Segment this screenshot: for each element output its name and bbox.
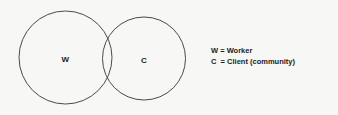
venn-label-client: C: [141, 55, 147, 64]
venn-diagram: W C W = Worker C = Client (community): [0, 0, 338, 115]
legend-line-client: C = Client (community): [211, 56, 295, 67]
venn-label-worker: W: [62, 54, 70, 63]
legend-line-worker: W = Worker: [211, 45, 295, 56]
venn-legend: W = Worker C = Client (community): [211, 45, 295, 67]
